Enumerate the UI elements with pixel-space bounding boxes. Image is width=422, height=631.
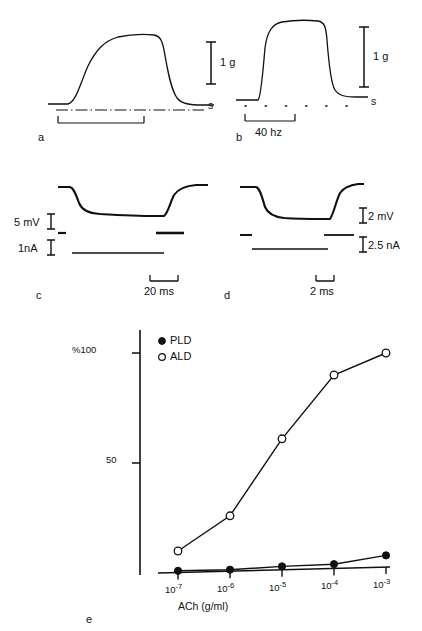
panel-letter-a: a [38,131,44,143]
x-axis-title: ACh (g/ml) [178,600,228,612]
data-point-ald-0 [174,547,182,555]
current-calibration-label-c: 1nA [18,242,38,254]
legend-marker-ald [157,351,169,363]
current-calibration-bar-d [358,235,368,255]
panel-letter-d: d [224,289,230,301]
y-tick-label-100: %100 [72,344,96,355]
voltage-calibration-label-d: 2 mV [368,210,394,222]
data-point-pld-2 [278,563,285,570]
panel-c-traces [56,183,216,263]
data-point-pld-3 [330,561,337,568]
calibration-bar-a [204,40,218,88]
time-calibration-label-d: 2 ms [310,285,334,297]
contraction-curve-a [48,34,214,105]
voltage-calibration-label-c: 5 mV [14,216,40,228]
stimulus-label-a: s [208,99,213,111]
data-point-pld-4 [382,552,389,559]
x-tick-label-1: 10-6 [217,581,234,594]
calibration-label-a: 1 g [220,56,235,68]
panel-d-traces [238,183,368,263]
x-tick-label-4: 10-3 [373,577,390,590]
y-axis-ticks [132,353,140,463]
voltage-calibration-bar-c [46,212,56,232]
data-point-pld-1 [226,566,233,573]
y-tick-label-50: 50 [106,454,117,465]
time-bar-d [312,273,352,285]
voltage-trace-d [240,184,364,219]
current-calibration-bar-c [46,238,56,258]
time-calibration-label-c: 20 ms [144,285,174,297]
duration-bracket-a [56,114,166,128]
data-point-ald-4 [382,349,390,357]
frequency-label-b: 40 hz [255,126,282,138]
x-tick-label-2: 10-5 [269,580,286,593]
chart-series-layer [174,349,390,574]
time-bar-c [146,273,196,285]
voltage-calibration-bar-d [358,206,368,226]
calibration-bar-b [357,25,371,91]
current-calibration-label-d: 2.5 nA [368,239,400,251]
data-point-ald-2 [278,435,286,443]
panel-letter-c: c [36,289,42,301]
data-point-ald-3 [330,371,338,379]
contraction-curve-b [236,20,368,100]
panel-letter-b: b [236,131,242,143]
legend-marker-pld [157,335,169,347]
figure-canvas: s 1 g a s 40 hz 1 g b [0,0,422,631]
frequency-bracket-b [241,112,311,126]
x-tick-label-0: 10-7 [165,582,182,595]
calibration-label-b: 1 g [373,50,388,62]
series-line-ald [178,353,386,551]
legend-label-pld: PLD [170,334,191,346]
stimulus-label-b: s [371,95,376,107]
x-tick-label-3: 10-4 [321,578,338,591]
data-point-pld-0 [174,567,181,574]
voltage-trace-c [58,185,208,216]
panel-letter-e: e [86,613,92,625]
data-point-ald-1 [226,512,234,520]
legend-label-ald: ALD [170,350,191,362]
